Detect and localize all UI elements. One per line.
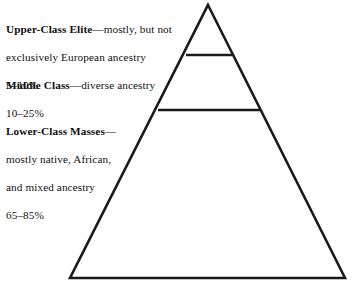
tier-term: Middle Class: [6, 79, 70, 91]
tier-description: —: [105, 125, 116, 137]
tier-term: Lower-Class Masses: [6, 125, 105, 137]
tier-label-line: and mixed ancestry: [6, 180, 166, 194]
tier-label-lower-class-masses: Lower-Class Masses— mostly native, Afric…: [6, 110, 166, 236]
tier-label-line: mostly native, African,: [6, 152, 166, 166]
tier-label-line: Upper-Class Elite—mostly, but not: [6, 22, 206, 36]
tier-term: Upper-Class Elite: [6, 23, 92, 35]
tier-description: —mostly, but not: [92, 23, 172, 35]
tier-label-line: Middle Class—diverse ancestry: [6, 78, 196, 92]
tier-percentage: 65–85%: [6, 208, 166, 222]
tier-label-line: Lower-Class Masses—: [6, 124, 166, 138]
pyramid-diagram: Upper-Class Elite—mostly, but not exclus…: [0, 0, 360, 291]
tier-label-line: exclusively European ancestry: [6, 50, 206, 64]
tier-description: —diverse ancestry: [70, 79, 155, 91]
